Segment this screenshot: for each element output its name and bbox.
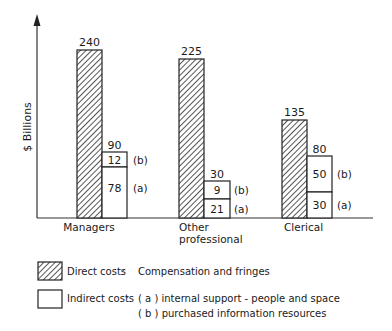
y-axis-arrow-icon (34, 14, 41, 26)
legend-indirect-a: ( a ) internal support - people and spac… (138, 293, 340, 304)
legend-desc-direct: Compensation and fringes (138, 266, 270, 277)
label-direct-managers: 240 (79, 36, 100, 49)
label-b-clerical: 50 (313, 168, 327, 181)
label-b-other-professional: 9 (214, 184, 221, 196)
legend: Direct costs : Compensation and fringes … (38, 262, 340, 319)
legend-swatch-direct (38, 262, 62, 280)
label-direct-clerical: 135 (284, 106, 305, 119)
y-axis-label: $ Billions (21, 102, 34, 152)
category-label-managers: Managers (63, 221, 115, 233)
legend-indirect-b: ( b ) purchased information resources (138, 308, 326, 319)
label-a-managers: 78 (108, 182, 122, 195)
bar-direct-clerical (282, 120, 307, 218)
chart: $ Billions 240 90 12 78 (b) (a) Managers… (0, 0, 392, 331)
bar-direct-managers (77, 50, 102, 218)
key-a-clerical: (a) (337, 199, 352, 211)
bar-group-clerical: 135 80 50 30 (b) (a) Clerical (282, 106, 352, 233)
legend-label-indirect: Indirect costs (67, 293, 134, 304)
label-a-clerical: 30 (313, 199, 327, 212)
bar-group-other-professional: 225 30 9 21 (b) (a) Other professional (179, 45, 249, 245)
key-a-managers: (a) (133, 182, 148, 194)
category-label-clerical: Clerical (284, 221, 323, 233)
label-b-managers: 12 (108, 154, 121, 166)
key-a-other-professional: (a) (234, 203, 249, 215)
legend-colon-indirect: : (126, 295, 129, 304)
label-a-other-professional: 21 (210, 203, 223, 215)
label-direct-other-professional: 225 (181, 45, 202, 58)
key-b-managers: (b) (133, 154, 148, 166)
category-label-other-professional-line1: Other (179, 221, 209, 233)
bar-direct-other-professional (179, 59, 204, 218)
key-b-other-professional: (b) (234, 184, 249, 196)
label-indirect-total-managers: 90 (108, 139, 122, 152)
legend-label-direct: Direct costs (67, 266, 126, 277)
legend-swatch-indirect (38, 290, 62, 308)
bar-group-managers: 240 90 12 78 (b) (a) Managers (63, 36, 148, 233)
key-b-clerical: (b) (337, 168, 352, 180)
label-indirect-total-clerical: 80 (313, 143, 327, 156)
legend-colon-direct: : (122, 268, 125, 277)
label-indirect-total-other-professional: 30 (210, 168, 224, 181)
category-label-other-professional-line2: professional (179, 233, 243, 245)
